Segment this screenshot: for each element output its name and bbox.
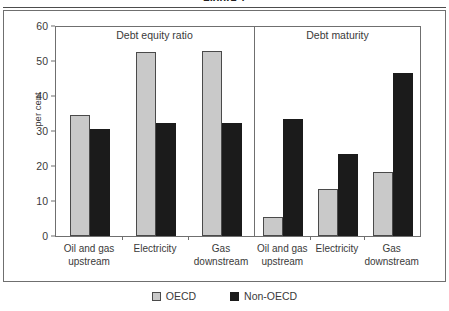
y-tick-label: 60	[20, 21, 48, 32]
y-tick-mark	[51, 236, 55, 237]
legend-item-non-oecd: Non-OECD	[230, 290, 297, 302]
bars-layer	[56, 26, 420, 236]
y-tick-mark	[51, 96, 55, 97]
y-tick-mark	[51, 201, 55, 202]
plot-right-border	[420, 26, 421, 237]
bar-oecd-gas-downstream	[373, 172, 393, 236]
x-axis-labels: Oil and gasupstreamElectricityGasdownstr…	[55, 243, 420, 275]
bar-non-oecd-electricity	[156, 123, 176, 236]
y-tick-mark	[51, 166, 55, 167]
y-tick-label: 30	[20, 126, 48, 137]
square-filled-icon	[230, 292, 239, 301]
bar-oecd-electricity	[136, 52, 156, 236]
bar-oecd-oil-and-gas-upstream	[263, 217, 283, 236]
bar-non-oecd-gas-downstream	[393, 73, 413, 236]
x-tick-mark	[310, 236, 311, 240]
bar-non-oecd-gas-downstream	[222, 123, 242, 236]
y-tick-label: 0	[20, 231, 48, 242]
y-tick-label: 40	[20, 91, 48, 102]
y-tick-mark	[51, 131, 55, 132]
y-tick-mark	[51, 61, 55, 62]
legend-label-oecd: OECD	[166, 290, 196, 302]
x-label-line-2: downstream	[358, 256, 425, 269]
bar-oecd-oil-and-gas-upstream	[70, 115, 90, 236]
chart-legend: OECD Non-OECD	[0, 286, 449, 306]
legend-label-non-oecd: Non-OECD	[244, 290, 297, 302]
y-tick-label: 50	[20, 56, 48, 67]
x-tick-mark	[188, 236, 189, 240]
bar-oecd-electricity	[318, 189, 338, 236]
x-axis-category-label: Gasdownstream	[358, 243, 425, 268]
bar-non-oecd-electricity	[338, 154, 358, 236]
figure-caption: Figure 1	[0, 0, 449, 1]
caption-rule	[3, 7, 446, 8]
x-tick-mark	[122, 236, 123, 240]
y-tick-label: 20	[20, 161, 48, 172]
x-label-line-2: upstream	[249, 256, 316, 269]
bar-oecd-gas-downstream	[202, 51, 222, 237]
y-tick-mark	[51, 26, 55, 27]
y-tick-label: 10	[20, 196, 48, 207]
x-tick-mark	[364, 236, 365, 240]
bar-non-oecd-oil-and-gas-upstream	[90, 129, 110, 236]
square-outline-icon	[152, 292, 161, 301]
x-label-line-1: Gas	[358, 243, 425, 256]
figure-container: Figure 1 per cent 0102030405060 Debt equ…	[0, 0, 449, 311]
legend-item-oecd: OECD	[152, 290, 196, 302]
y-axis-ticks: 0102030405060	[20, 20, 48, 236]
bar-non-oecd-oil-and-gas-upstream	[283, 119, 303, 236]
x-label-line-2: upstream	[50, 256, 128, 269]
